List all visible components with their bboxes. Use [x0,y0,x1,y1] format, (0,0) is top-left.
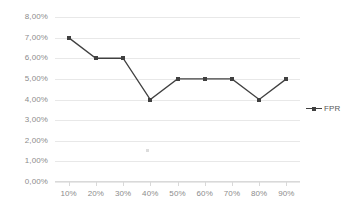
x-axis-tick [123,182,124,186]
x-axis-tick-label: 90% [278,189,294,199]
x-axis-tick-label: 50% [169,189,185,199]
data-point-marker [121,56,125,60]
x-axis-tick [150,182,151,186]
x-axis-tick [259,182,260,186]
stray-artifact [146,149,149,152]
y-axis-tick-label: 7,00% [25,33,48,43]
x-axis-tick-label: 70% [224,189,240,199]
y-axis-tick-label: 2,00% [25,136,48,146]
x-axis-tick-label: 10% [60,189,76,199]
x-axis-tick-label: 30% [115,189,131,199]
y-axis-labels: 8,00%7,00%6,00%5,00%4,00%3,00%2,00%1,00%… [0,17,48,182]
series-fpr-line [55,17,300,182]
legend-item-fpr: FPR [324,104,340,113]
data-point-marker [94,56,98,60]
y-axis-tick-label: 3,00% [25,115,48,125]
y-axis-tick-label: 6,00% [25,53,48,63]
x-axis-tick [286,182,287,186]
chart-legend: FPR [306,104,340,113]
data-point-marker [67,36,71,40]
y-axis-tick-label: 8,00% [25,12,48,22]
y-axis-tick-label: 4,00% [25,95,48,105]
data-point-marker [257,98,261,102]
data-point-marker [203,77,207,81]
x-axis-tick-label: 80% [251,189,267,199]
data-point-marker [284,77,288,81]
x-axis-tick-label: 60% [197,189,213,199]
data-point-marker [230,77,234,81]
x-axis-tick-label: 40% [142,189,158,199]
data-point-marker [176,77,180,81]
plot-area [55,17,300,182]
x-axis-tick [178,182,179,186]
y-axis-tick-label: 5,00% [25,74,48,84]
y-axis-tick-label: 1,00% [25,156,48,166]
y-axis-tick-label: 0,00% [25,177,48,187]
x-axis-tick [205,182,206,186]
x-axis-tick-label: 20% [88,189,104,199]
x-axis-tick [69,182,70,186]
line-chart: 8,00%7,00%6,00%5,00%4,00%3,00%2,00%1,00%… [0,0,358,214]
x-axis-tick [96,182,97,186]
x-axis-tick [232,182,233,186]
legend-marker-icon [306,105,322,113]
data-point-marker [148,98,152,102]
